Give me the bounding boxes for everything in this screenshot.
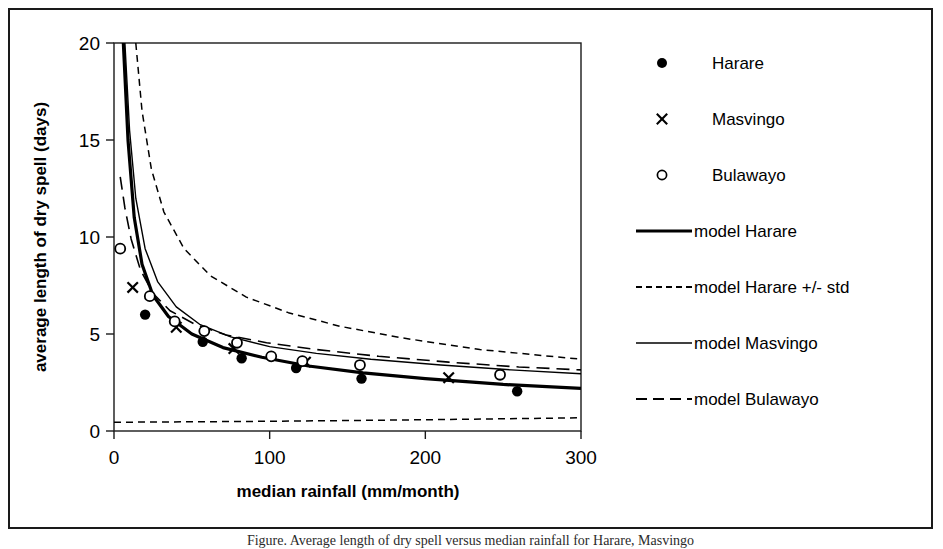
legend-item-model-masvingo: model Masvingo <box>636 334 818 353</box>
y-tick-label-20: 20 <box>79 33 100 54</box>
curve-model-bulawayo <box>120 177 581 370</box>
point-bulawayo-1 <box>145 291 155 301</box>
plot-area-box <box>114 43 581 431</box>
plot-axes <box>114 43 581 431</box>
x-axis-ticks <box>114 431 581 439</box>
curve-model-harare-std <box>114 418 581 422</box>
point-bulawayo-0 <box>115 244 125 254</box>
data-point-markers <box>115 244 522 397</box>
y-tick-label-15: 15 <box>79 130 100 151</box>
point-harare-1 <box>198 337 208 347</box>
chart-canvas: 05101520 0100200300 average length of dr… <box>0 0 943 549</box>
curve-model-masvingo <box>125 43 581 374</box>
legend-item-model-bulawayo: model Bulawayo <box>636 390 819 409</box>
x-tick-label-0: 0 <box>109 447 120 468</box>
open-circle-icon <box>657 170 666 179</box>
point-harare-5 <box>512 386 522 396</box>
point-harare-0 <box>140 309 150 319</box>
x-tick-label-200: 200 <box>409 447 441 468</box>
x-tick-label-300: 300 <box>565 447 597 468</box>
legend-label-model-harare: model Harare <box>694 222 797 241</box>
figure-container: 05101520 0100200300 average length of dr… <box>0 0 943 549</box>
legend-label-model-masvingo: model Masvingo <box>694 334 818 353</box>
cross-icon <box>657 114 667 124</box>
point-bulawayo-7 <box>355 360 365 370</box>
filled-circle-icon <box>657 58 667 68</box>
point-harare-4 <box>356 373 366 383</box>
point-bulawayo-3 <box>199 326 209 336</box>
point-bulawayo-6 <box>297 356 307 366</box>
x-axis-tick-labels: 0100200300 <box>109 447 597 468</box>
point-bulawayo-5 <box>266 351 276 361</box>
legend-label-model-harare-std: model Harare +/- std <box>694 278 849 297</box>
legend-item-masvingo: Masvingo <box>657 110 785 129</box>
point-bulawayo-2 <box>170 316 180 326</box>
legend-item-model-harare-std: model Harare +/- std <box>636 278 849 297</box>
legend-item-bulawayo: Bulawayo <box>657 166 785 185</box>
y-tick-label-10: 10 <box>79 227 100 248</box>
legend-item-model-harare: model Harare <box>636 222 797 241</box>
legend: HarareMasvingoBulawayomodel Hararemodel … <box>636 54 849 409</box>
x-axis-title: median rainfall (mm/month) <box>237 482 460 501</box>
legend-label-model-bulawayo: model Bulawayo <box>694 390 819 409</box>
figure-caption: Figure. Average length of dry spell vers… <box>8 533 933 549</box>
point-harare-2 <box>236 353 246 363</box>
legend-item-harare: Harare <box>657 54 764 73</box>
legend-label-bulawayo: Bulawayo <box>712 166 786 185</box>
x-tick-label-100: 100 <box>254 447 286 468</box>
y-axis-ticks <box>106 43 114 431</box>
point-bulawayo-4 <box>232 338 242 348</box>
y-tick-label-5: 5 <box>89 324 100 345</box>
legend-label-masvingo: Masvingo <box>712 110 785 129</box>
curve-model-harare-std <box>136 43 581 359</box>
legend-label-harare: Harare <box>712 54 764 73</box>
y-axis-title: average length of dry spell (days) <box>31 102 50 372</box>
model-curves <box>114 43 581 422</box>
y-tick-label-0: 0 <box>89 421 100 442</box>
point-masvingo-0 <box>127 282 137 292</box>
curve-model-harare <box>123 43 581 388</box>
point-bulawayo-8 <box>495 370 505 380</box>
y-axis-tick-labels: 05101520 <box>79 33 100 442</box>
